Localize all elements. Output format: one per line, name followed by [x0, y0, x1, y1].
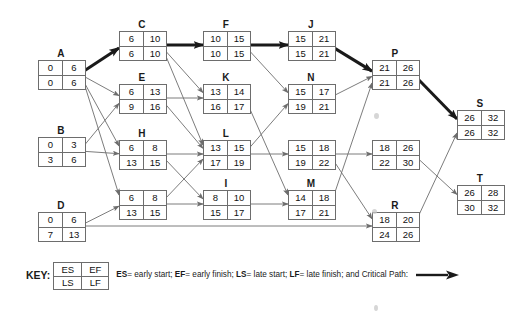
node-late-finish: 17	[227, 205, 250, 219]
node-late-finish: 17	[227, 99, 250, 113]
edge-k-to-m	[249, 107, 288, 195]
node-late-finish: 22	[312, 155, 335, 169]
activity-node-e[interactable]: E613916	[119, 84, 165, 112]
edge-c-to-k	[165, 50, 203, 92]
node-early-finish: 21	[312, 32, 335, 46]
activity-node-g2[interactable]: 15181922	[288, 140, 334, 168]
activity-node-g3[interactable]: 18262230	[372, 140, 418, 168]
node-early-start: 15	[289, 141, 312, 155]
legend-lf: LF	[81, 276, 108, 289]
edge-l-to-n	[249, 104, 288, 149]
edge-c-to-l	[165, 54, 203, 145]
activity-node-d[interactable]: D06713	[38, 212, 84, 240]
edge-n-to-p	[334, 76, 372, 95]
legend-description: ES= early start; EF= early finish; LS= l…	[116, 270, 460, 280]
edge-p-to-s	[418, 79, 457, 119]
activity-node-t[interactable]: T26283032	[457, 185, 503, 213]
node-late-start: 9	[120, 99, 143, 113]
node-early-start: 0	[39, 213, 62, 227]
node-late-start: 16	[204, 99, 227, 113]
edge-g3-to-t	[418, 159, 457, 195]
node-label: A	[38, 48, 84, 59]
node-late-start: 13	[120, 205, 143, 219]
activity-node-i[interactable]: I8101517	[203, 190, 249, 218]
legend-ls: LS	[54, 276, 81, 289]
node-label: I	[203, 178, 249, 189]
node-late-start: 3	[39, 152, 62, 166]
node-late-start: 19	[289, 99, 312, 113]
node-late-finish: 16	[143, 99, 166, 113]
node-early-start: 13	[204, 85, 227, 99]
activity-node-s[interactable]: S26322632	[457, 110, 503, 138]
node-late-start: 7	[39, 227, 62, 241]
node-early-finish: 13	[143, 85, 166, 99]
node-late-start: 22	[373, 155, 396, 169]
node-label: L	[203, 128, 249, 139]
node-label: S	[457, 98, 503, 109]
legend-key-word: KEY:	[26, 269, 50, 281]
activity-node-l[interactable]: L13151719	[203, 140, 249, 168]
scan-speck	[374, 113, 379, 119]
edge-m-to-p	[334, 83, 372, 195]
node-label: M	[288, 178, 334, 189]
activity-node-j[interactable]: J15211521	[288, 31, 334, 59]
legend: KEY: ES EF LS LF ES= early start; EF= ea…	[26, 262, 460, 288]
node-late-finish: 21	[312, 205, 335, 219]
node-late-start: 21	[373, 75, 396, 89]
node-early-finish: 20	[396, 213, 419, 227]
node-early-finish: 28	[481, 186, 504, 200]
node-early-start: 6	[120, 85, 143, 99]
legend-es: ES	[54, 263, 81, 276]
node-early-start: 10	[204, 32, 227, 46]
activity-node-f[interactable]: F10151015	[203, 31, 249, 59]
node-early-finish: 3	[62, 138, 85, 152]
edge-f-to-n	[249, 50, 288, 92]
node-early-finish: 6	[62, 213, 85, 227]
node-early-finish: 32	[481, 111, 504, 125]
network-diagram-canvas: A0606B0336D06713C610610E613916H681315681…	[0, 0, 521, 321]
activity-node-c[interactable]: C610610	[119, 31, 165, 59]
node-late-start: 6	[120, 46, 143, 60]
node-late-finish: 15	[143, 155, 166, 169]
node-early-finish: 8	[143, 191, 166, 205]
node-early-finish: 8	[143, 141, 166, 155]
activity-node-m[interactable]: M14181721	[288, 190, 334, 218]
node-late-start: 0	[39, 75, 62, 89]
node-early-start: 14	[289, 191, 312, 205]
legend-term: LS	[236, 270, 246, 279]
node-early-start: 6	[120, 32, 143, 46]
activity-node-p[interactable]: P21262126	[372, 60, 418, 88]
activity-node-k[interactable]: K13141617	[203, 84, 249, 112]
activity-node-h[interactable]: H681315	[119, 140, 165, 168]
node-late-finish: 15	[143, 205, 166, 219]
node-early-start: 15	[289, 32, 312, 46]
node-late-start: 10	[204, 46, 227, 60]
activity-node-r[interactable]: R18202426	[372, 212, 418, 240]
node-early-finish: 26	[396, 61, 419, 75]
node-label: K	[203, 72, 249, 83]
node-early-start: 15	[289, 85, 312, 99]
node-late-finish: 19	[227, 155, 250, 169]
node-label: F	[203, 19, 249, 30]
node-early-finish: 17	[312, 85, 335, 99]
activity-node-g1[interactable]: 681315	[119, 190, 165, 218]
activity-node-b[interactable]: B0336	[38, 137, 84, 165]
edge-a-to-h	[84, 82, 119, 146]
node-late-start: 17	[289, 205, 312, 219]
node-late-start: 24	[373, 227, 396, 241]
edge-e-to-l	[165, 104, 203, 149]
node-early-finish: 26	[396, 141, 419, 155]
node-late-start: 17	[204, 155, 227, 169]
node-early-start: 6	[120, 191, 143, 205]
node-label: J	[288, 19, 334, 30]
node-label: D	[38, 200, 84, 211]
node-late-finish: 6	[62, 75, 85, 89]
scan-speck	[374, 305, 378, 311]
activity-node-a[interactable]: A0606	[38, 60, 84, 88]
node-early-finish: 14	[227, 85, 250, 99]
edge-r-to-s	[418, 133, 457, 217]
node-label: B	[38, 125, 84, 136]
node-early-start: 13	[204, 141, 227, 155]
node-late-finish: 21	[312, 99, 335, 113]
activity-node-n[interactable]: N15171921	[288, 84, 334, 112]
